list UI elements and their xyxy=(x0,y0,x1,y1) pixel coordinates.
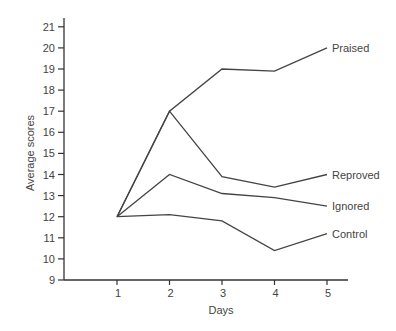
y-tick-label: 17 xyxy=(43,105,55,117)
series-line-ignored xyxy=(117,175,327,217)
y-tick-label: 21 xyxy=(43,21,55,33)
y-tick-label: 14 xyxy=(43,169,55,181)
series-label-control: Control xyxy=(332,228,367,240)
y-tick-label: 15 xyxy=(43,147,55,159)
y-tick-label: 16 xyxy=(43,126,55,138)
y-tick-label: 9 xyxy=(49,274,55,286)
y-axis-ticks: 9101112131415161718192021 xyxy=(43,21,64,286)
series-labels: PraisedReprovedIgnoredControl xyxy=(332,42,380,240)
y-tick-label: 10 xyxy=(43,253,55,265)
series-label-praised: Praised xyxy=(332,42,369,54)
y-tick-label: 12 xyxy=(43,211,55,223)
y-tick-label: 11 xyxy=(44,232,55,244)
x-tick-label: 3 xyxy=(220,287,226,299)
series-lines xyxy=(117,48,327,251)
y-tick-label: 20 xyxy=(43,42,55,54)
series-line-control xyxy=(117,215,327,251)
y-tick-label: 19 xyxy=(43,63,55,75)
series-label-reproved: Reproved xyxy=(332,169,380,181)
series-label-ignored: Ignored xyxy=(332,200,369,212)
y-axis-title: Average scores xyxy=(24,114,36,191)
x-axis-ticks: 12345 xyxy=(115,280,331,299)
x-tick-label: 2 xyxy=(167,287,173,299)
y-tick-label: 13 xyxy=(43,190,55,202)
x-axis-title: Days xyxy=(208,304,234,316)
line-chart: 9101112131415161718192021 12345 PraisedR… xyxy=(0,0,396,331)
y-tick-label: 18 xyxy=(43,84,55,96)
x-tick-label: 4 xyxy=(272,287,278,299)
x-tick-label: 5 xyxy=(325,287,331,299)
x-tick-label: 1 xyxy=(115,287,121,299)
